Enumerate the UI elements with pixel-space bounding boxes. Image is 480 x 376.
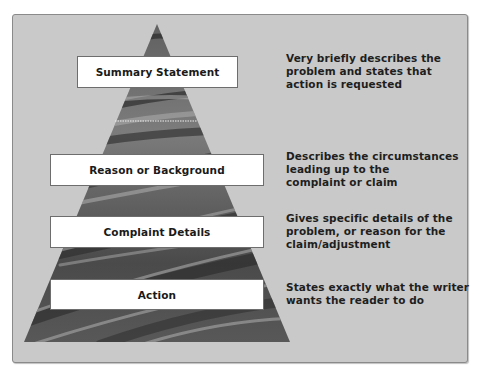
description-line: problem, or reason for the [286,225,461,238]
description-line: problem and states that [286,65,461,78]
description-line: action is requested [286,78,461,91]
level-summary-statement: Summary Statement [77,56,238,88]
description-complaint-details: Gives specific details of the problem, o… [286,212,461,251]
description-line: Very briefly describes the [286,52,461,65]
description-summary-statement: Very briefly describes the problem and s… [286,52,461,91]
level-label: Summary Statement [96,66,220,78]
level-complaint-details: Complaint Details [50,216,264,248]
description-line: leading up to the [286,163,461,176]
description-line: claim/adjustment [286,238,461,251]
description-reason-or-background: Describes the circumstances leading up t… [286,150,461,189]
level-label: Action [138,289,176,301]
description-action: States exactly what the writer wants the… [286,281,461,307]
level-reason-or-background: Reason or Background [50,154,264,186]
description-line: Gives specific details of the [286,212,461,225]
description-line: complaint or claim [286,176,461,189]
level-label: Complaint Details [104,226,211,238]
description-line: wants the reader to do [286,294,461,307]
description-line: States exactly what the writer [286,281,461,294]
description-line: Describes the circumstances [286,150,461,163]
level-action: Action [50,279,264,310]
level-label: Reason or Background [89,164,225,176]
